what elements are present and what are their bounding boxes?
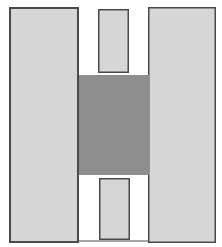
right-block [149,8,216,243]
shapes-layer [10,8,215,243]
center-block [79,75,149,175]
top-slot [99,10,129,73]
diagram-svg [0,0,222,247]
bottom-slot [100,179,130,240]
left-block [10,8,78,242]
diagram-canvas [0,0,222,247]
